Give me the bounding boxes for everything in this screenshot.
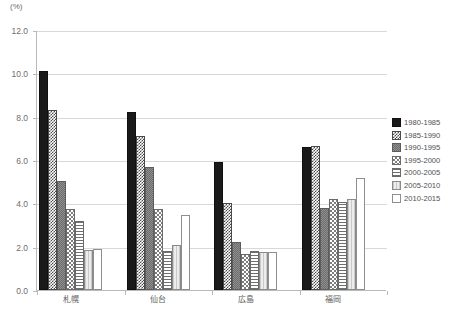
legend-item-label: 2000-2005 [404, 168, 440, 177]
bar[interactable] [223, 203, 232, 290]
legend-item-label: 1985-1990 [404, 131, 440, 140]
bar[interactable] [338, 202, 347, 290]
y-axis-tick-label: 0.0 [2, 286, 28, 296]
bar-group-bars [302, 30, 365, 290]
x-axis-tick [387, 291, 388, 295]
legend-swatch-icon [392, 131, 401, 140]
bar[interactable] [39, 71, 48, 290]
y-axis-tick [33, 248, 37, 249]
x-axis-tick [37, 291, 38, 295]
legend-swatch-icon [392, 168, 401, 177]
legend-swatch-icon [392, 181, 401, 190]
y-axis-tick [33, 204, 37, 205]
legend-item[interactable]: 2010-2015 [392, 194, 440, 203]
legend-item-label: 2010-2015 [404, 194, 440, 203]
x-axis-tick [212, 291, 213, 295]
legend-item-label: 1995-2000 [404, 156, 440, 165]
legend-item[interactable]: 1995-2000 [392, 156, 440, 165]
bar-group-bars [127, 30, 190, 290]
x-axis-tick [125, 291, 126, 295]
legend-item-label: 1980-1985 [404, 118, 440, 127]
y-axis-tick [33, 161, 37, 162]
bar[interactable] [356, 178, 365, 290]
legend-item[interactable]: 1980-1985 [392, 118, 440, 127]
x-axis-category-label: 福岡 [302, 293, 365, 304]
y-axis-tick-label: 12.0 [2, 26, 28, 36]
legend-item[interactable]: 1985-1990 [392, 131, 440, 140]
plot-area: 札幌仙台広島福岡 [36, 31, 386, 291]
bar-group: 札幌 [39, 30, 102, 290]
legend-item[interactable]: 2000-2005 [392, 168, 440, 177]
x-axis-tick [300, 291, 301, 295]
legend-swatch-icon [392, 194, 401, 203]
legend-swatch-icon [392, 118, 401, 127]
bar[interactable] [259, 252, 268, 290]
y-axis-tick-label: 2.0 [2, 243, 28, 253]
legend-swatch-icon [392, 156, 401, 165]
x-axis-category-label: 広島 [214, 293, 277, 304]
y-axis-tick-label: 10.0 [2, 69, 28, 79]
bar[interactable] [329, 199, 338, 290]
y-axis-unit-label: (%) [10, 2, 22, 11]
bar[interactable] [172, 245, 181, 291]
bar-group: 福岡 [302, 30, 365, 290]
legend-swatch-icon [392, 143, 401, 152]
bar[interactable] [136, 136, 145, 290]
bar-group-bars [214, 30, 277, 290]
bar[interactable] [75, 221, 84, 290]
bar[interactable] [145, 167, 154, 291]
y-axis-tick [33, 118, 37, 119]
bar[interactable] [163, 251, 172, 290]
bar[interactable] [232, 242, 241, 290]
bar[interactable] [250, 251, 259, 290]
legend-item[interactable]: 1990-1995 [392, 143, 440, 152]
figure-caption [0, 316, 457, 324]
bar[interactable] [84, 250, 93, 290]
bar[interactable] [57, 181, 66, 290]
bar[interactable] [154, 209, 163, 290]
bar[interactable] [311, 146, 320, 290]
bar[interactable] [127, 112, 136, 290]
bar[interactable] [66, 209, 75, 290]
x-axis-category-label: 札幌 [39, 293, 102, 304]
y-axis-tick-label: 8.0 [2, 113, 28, 123]
chart-figure: (%) 札幌仙台広島福岡 1980-19851985-19901990-1995… [0, 0, 457, 324]
bar[interactable] [181, 215, 190, 290]
bar[interactable] [48, 110, 57, 290]
bar-group-bars [39, 30, 102, 290]
bar-group: 仙台 [127, 30, 190, 290]
legend-item-label: 2005-2010 [404, 181, 440, 190]
bar[interactable] [214, 162, 223, 290]
y-axis-tick [33, 74, 37, 75]
bar[interactable] [241, 254, 250, 290]
bar[interactable] [93, 249, 102, 290]
bar-group: 広島 [214, 30, 277, 290]
y-axis-tick [33, 31, 37, 32]
bar[interactable] [302, 147, 311, 290]
legend-item-label: 1990-1995 [404, 143, 440, 152]
bar[interactable] [320, 208, 329, 290]
bar[interactable] [268, 252, 277, 290]
y-axis-tick-label: 6.0 [2, 156, 28, 166]
chart-legend: 1980-19851985-19901990-19951995-20002000… [392, 118, 440, 203]
y-axis-tick-label: 4.0 [2, 199, 28, 209]
x-axis-category-label: 仙台 [127, 293, 190, 304]
legend-item[interactable]: 2005-2010 [392, 181, 440, 190]
bar[interactable] [347, 199, 356, 290]
